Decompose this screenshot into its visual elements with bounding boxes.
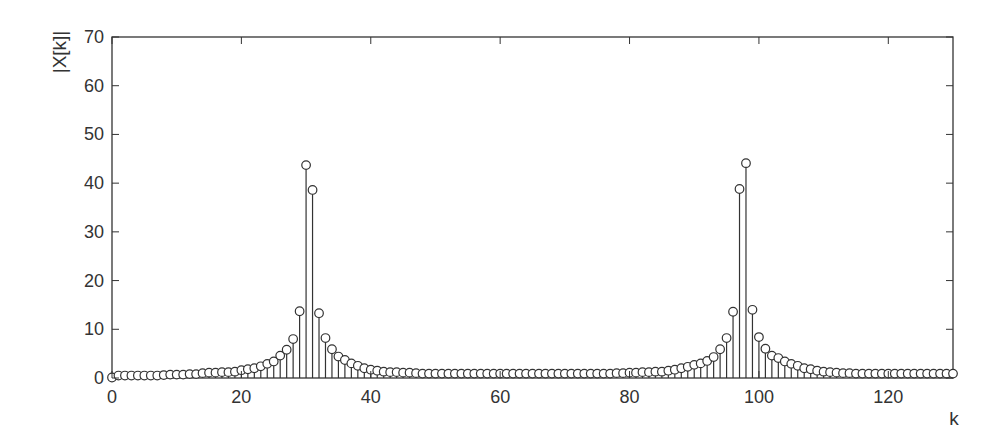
x-axis-label: k — [949, 408, 959, 429]
stem-marker — [289, 335, 298, 344]
y-tick-label: 20 — [84, 271, 104, 291]
y-tick-label: 70 — [84, 27, 104, 47]
stem-marker — [321, 334, 330, 343]
stem-marker — [761, 344, 770, 353]
y-tick-label: 60 — [84, 76, 104, 96]
stem-plot: 010203040506070 020406080100120 |X[k]| k — [0, 0, 999, 446]
x-tick-label: 100 — [744, 387, 774, 407]
stem-marker — [755, 333, 764, 342]
y-axis-label: |X[k]| — [49, 31, 70, 74]
y-tick-label: 50 — [84, 124, 104, 144]
stem-marker — [742, 159, 751, 168]
stem-marker — [328, 345, 337, 354]
stem-marker — [308, 186, 317, 195]
stem-marker — [302, 161, 311, 170]
y-tick-label: 10 — [84, 319, 104, 339]
stem-marker — [716, 345, 725, 354]
stem-marker — [315, 309, 324, 318]
stem-marker — [748, 306, 757, 315]
y-tick-label: 40 — [84, 173, 104, 193]
x-tick-label: 120 — [873, 387, 903, 407]
x-tick-label: 80 — [620, 387, 640, 407]
stem-marker — [709, 353, 718, 362]
y-tick-label: 0 — [94, 368, 104, 388]
stem-marker — [295, 307, 304, 316]
stem-series — [108, 159, 958, 382]
stem-marker — [282, 345, 291, 354]
y-axis-ticks: 010203040506070 — [84, 27, 953, 388]
x-tick-label: 40 — [361, 387, 381, 407]
stem-marker — [729, 307, 738, 316]
stem-marker — [949, 369, 958, 378]
x-axis-ticks: 020406080100120 — [107, 37, 903, 407]
stem-marker — [722, 334, 731, 343]
axes-frame — [112, 37, 953, 378]
stem-marker — [735, 185, 744, 194]
y-tick-label: 30 — [84, 222, 104, 242]
x-tick-label: 20 — [231, 387, 251, 407]
x-tick-label: 60 — [490, 387, 510, 407]
x-tick-label: 0 — [107, 387, 117, 407]
